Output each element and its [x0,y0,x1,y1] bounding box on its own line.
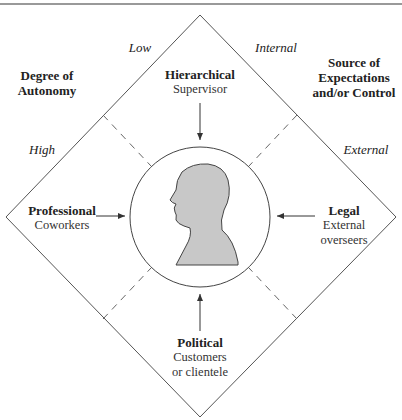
axis-title-line: and/or Control [306,85,402,100]
quadrant-subtitle: Coworkers [22,218,102,233]
source-of-expectations-label: Source of Expectations and/or Control [306,55,402,100]
quadrant-title: Hierarchical [150,67,250,82]
quadrant-subtitle: External [314,218,374,233]
external-label: External [336,142,396,157]
high-label: High [22,142,62,157]
internal-label: Internal [246,40,306,55]
axis-title-line: Source of [306,55,402,70]
axis-title-line: Degree of [0,68,94,83]
quadrant-political: Political Customers or clientele [150,335,250,380]
quadrant-title: Professional [22,203,102,218]
quadrant-professional: Professional Coworkers [22,203,102,233]
degree-of-autonomy-label: Degree of Autonomy [0,68,94,98]
low-label: Low [120,40,160,55]
quadrant-subtitle: Customers [150,350,250,365]
quadrant-hierarchical: Hierarchical Supervisor [150,67,250,97]
quadrant-subtitle: Supervisor [150,82,250,97]
quadrant-title: Legal [314,203,374,218]
quadrant-subtitle: or clientele [150,365,250,380]
axis-title-line: Autonomy [0,83,94,98]
quadrant-legal: Legal External overseers [314,203,374,248]
quadrant-title: Political [150,335,250,350]
axis-title-line: Expectations [306,70,402,85]
quadrant-subtitle: overseers [314,233,374,248]
